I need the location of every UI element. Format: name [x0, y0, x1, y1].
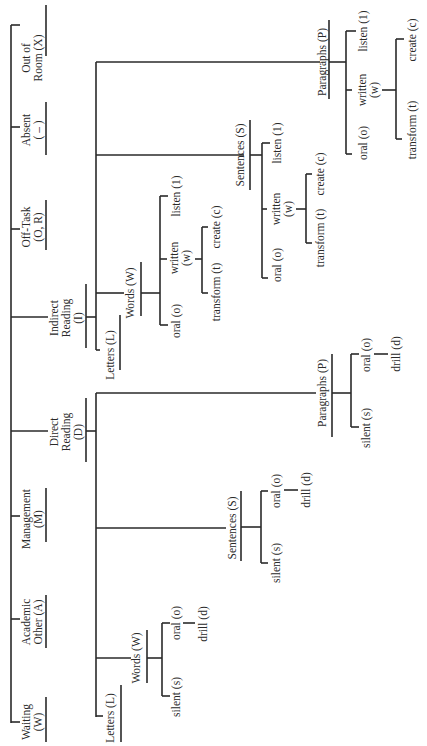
root-label-absent: Absent ( – ): [20, 102, 46, 155]
svg-text:Sentences (S): Sentences (S): [234, 123, 247, 186]
svg-text:listen (1): listen (1): [271, 122, 284, 163]
svg-text:(M): (M): [32, 510, 45, 528]
svg-text:listen (1): listen (1): [170, 175, 183, 216]
svg-text:Paragraphs (P): Paragraphs (P): [316, 28, 329, 96]
root-label-waiting: Waiting (W): [20, 697, 46, 742]
svg-text:written: written: [356, 73, 368, 106]
svg-text:transform (t): transform (t): [406, 101, 419, 160]
svg-text:oral (o): oral (o): [271, 248, 284, 282]
svg-text:drill (d): drill (d): [197, 606, 210, 642]
svg-text:transform (t): transform (t): [210, 263, 223, 322]
svg-text:Other (A): Other (A): [32, 599, 45, 644]
svg-text:(W): (W): [32, 713, 45, 732]
svg-text:create (c): create (c): [314, 152, 327, 195]
root-label-out-of-room: Out of Room (X): [20, 5, 46, 81]
svg-text:Off-Task: Off-Task: [20, 206, 32, 247]
svg-text:Absent: Absent: [20, 113, 32, 146]
svg-text:(w): (w): [368, 82, 381, 98]
svg-text:(D): (D): [72, 424, 85, 440]
svg-text:Sentences (S): Sentences (S): [226, 496, 239, 559]
svg-text:Words (W): Words (W): [130, 632, 143, 683]
svg-text:oral (o): oral (o): [360, 338, 373, 372]
svg-text:silent (s): silent (s): [360, 408, 373, 448]
direct-reading-subtree: Letters (L) Words (W) oral (o) silent (s…: [86, 336, 403, 743]
svg-text:(w): (w): [180, 250, 193, 266]
svg-text:drill (d): drill (d): [300, 472, 313, 508]
root-label-management: Management (M): [20, 488, 46, 549]
svg-text:(O, R): (O, R): [32, 212, 45, 242]
svg-text:silent (s): silent (s): [270, 543, 283, 583]
reading-behavior-tree-diagram: Out of Room (X) Absent ( – ) Off-Task (O…: [0, 0, 427, 746]
svg-text:Letters (L): Letters (L): [104, 330, 117, 380]
svg-text:oral (o): oral (o): [357, 126, 370, 160]
svg-text:Indirect: Indirect: [48, 299, 60, 336]
svg-text:create (c): create (c): [210, 205, 223, 248]
svg-text:Words (W): Words (W): [124, 267, 137, 318]
svg-text:create (c): create (c): [406, 18, 419, 61]
root-label-direct-reading: Direct Reading (D): [48, 413, 85, 452]
indirect-reading-subtree: Letters (L) Words (W) listen (1) written…: [86, 10, 419, 380]
root-label-academic-other: Academic Other (A): [20, 595, 46, 648]
root-label-indirect-reading: Indirect Reading (I): [48, 299, 85, 338]
svg-text:( – ): ( – ): [32, 120, 45, 139]
root-label-off-task: Off-Task (O, R): [20, 200, 46, 250]
svg-text:transform (t): transform (t): [314, 209, 327, 268]
svg-text:(w): (w): [282, 201, 295, 217]
svg-text:Academic: Academic: [20, 599, 32, 646]
svg-text:Paragraphs (P): Paragraphs (P): [316, 359, 329, 427]
svg-text:written: written: [270, 192, 282, 225]
svg-text:(I): (I): [72, 312, 85, 324]
svg-text:written: written: [168, 241, 180, 274]
svg-text:oral (o): oral (o): [170, 304, 183, 338]
svg-text:silent (s): silent (s): [170, 677, 183, 717]
svg-text:oral (o): oral (o): [270, 474, 283, 508]
svg-text:Room (X): Room (X): [32, 34, 45, 81]
svg-text:listen (1): listen (1): [357, 10, 370, 51]
svg-text:Out of: Out of: [20, 43, 32, 73]
svg-text:Direct: Direct: [48, 417, 60, 447]
svg-text:oral (o): oral (o): [170, 606, 183, 640]
svg-text:drill (d): drill (d): [390, 336, 403, 372]
svg-text:Letters (L): Letters (L): [104, 693, 117, 743]
